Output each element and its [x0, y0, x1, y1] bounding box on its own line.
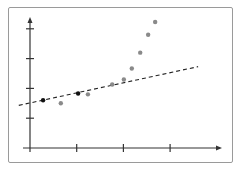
data-point: [110, 82, 114, 86]
data-point: [130, 66, 134, 70]
data-point: [146, 33, 150, 37]
data-point: [59, 101, 63, 105]
data-point: [41, 98, 45, 102]
data-point: [86, 92, 90, 96]
data-point: [76, 91, 80, 95]
data-point: [138, 50, 142, 54]
data-point: [153, 20, 157, 24]
chart-frame: [9, 8, 233, 163]
data-point: [122, 77, 126, 81]
scatter-chart: [0, 0, 239, 175]
